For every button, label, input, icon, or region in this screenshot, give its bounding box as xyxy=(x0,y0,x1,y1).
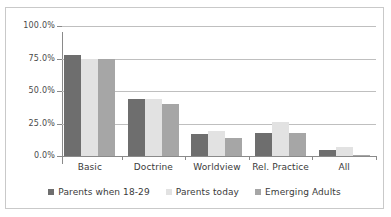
bar xyxy=(81,59,98,157)
bar xyxy=(255,133,272,156)
y-axis-tick-label: 100.0% xyxy=(7,21,55,30)
bar xyxy=(289,133,306,156)
y-axis-tick-label: 50.0% xyxy=(7,86,55,95)
legend-item: Parents when 18-29 xyxy=(48,187,149,197)
bar xyxy=(208,131,225,156)
bar-group xyxy=(58,26,122,156)
legend-label: Parents when 18-29 xyxy=(58,187,149,197)
bar xyxy=(64,55,81,156)
bar xyxy=(128,99,145,156)
legend-swatch-icon xyxy=(166,189,172,195)
legend-label: Parents today xyxy=(176,187,239,197)
x-axis-tick-label: Doctrine xyxy=(122,162,186,172)
bar xyxy=(162,104,179,156)
bar-group xyxy=(185,26,249,156)
chart-frame: 0.0%25.0%50.0%75.0%100.0% BasicDoctrineW… xyxy=(5,7,384,209)
x-axis-tick-label: Basic xyxy=(58,162,122,172)
x-axis-tick-label: All xyxy=(312,162,376,172)
chart-legend: Parents when 18-29Parents todayEmerging … xyxy=(6,187,383,197)
bar xyxy=(336,147,353,156)
bar xyxy=(272,122,289,156)
x-axis-tick-label: Worldview xyxy=(185,162,249,172)
y-axis-tick-label: 0.0% xyxy=(7,151,55,160)
bar-group xyxy=(122,26,186,156)
legend-label: Emerging Adults xyxy=(265,187,341,197)
legend-item: Parents today xyxy=(166,187,239,197)
bar xyxy=(191,134,208,156)
bar-group xyxy=(312,26,376,156)
bar xyxy=(145,99,162,156)
y-axis-tick-label: 25.0% xyxy=(7,119,55,128)
legend-item: Emerging Adults xyxy=(255,187,341,197)
y-axis-tick-label: 75.0% xyxy=(7,54,55,63)
legend-swatch-icon xyxy=(255,189,261,195)
plot-area xyxy=(58,26,376,156)
bar xyxy=(225,138,242,156)
x-axis-tick-label: Rel. Practice xyxy=(249,162,313,172)
bar xyxy=(98,59,115,157)
legend-swatch-icon xyxy=(48,189,54,195)
y-axis-tick-labels: 0.0%25.0%50.0%75.0%100.0% xyxy=(6,8,55,217)
x-axis-tick xyxy=(376,156,377,160)
bar-group xyxy=(249,26,313,156)
x-axis-line xyxy=(58,156,376,157)
